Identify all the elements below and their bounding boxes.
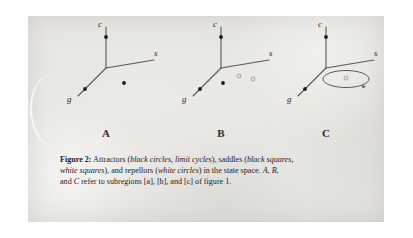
marker-black-circle-interior (221, 81, 225, 85)
axis-label-c: c (213, 19, 217, 29)
caption-l1-italic-a: black circles, limit cycles (130, 155, 212, 164)
caption-l1-plain-a: Attractors ( (92, 155, 131, 164)
marker-black-circle-g-axis (83, 87, 87, 91)
caption-l1-italic-b: black squares, (247, 155, 293, 164)
subfigure-labels: A B C (28, 127, 384, 143)
figure-caption: Figure 2: Attractors (black circles, lim… (60, 154, 308, 188)
caption-l2-plain-a: ), and repellors ( (104, 166, 158, 175)
caption-l2-plain-b: ) in the state space. (199, 166, 263, 175)
marker-white-circle-repellor (344, 76, 348, 80)
axis-label-s: s (154, 48, 158, 58)
sublabel-c: C (311, 127, 341, 139)
diagram-panel-b: c s g (173, 18, 283, 130)
marker-black-circle-c-axis (324, 35, 328, 39)
diagram-a-svg: c s g (58, 18, 168, 130)
axis-s (221, 60, 269, 68)
diagram-panel-a: c s g (58, 18, 168, 130)
axis-label-s: s (374, 48, 378, 58)
caption-l2-plain-d: , (277, 166, 279, 175)
marker-black-circle-g-axis (303, 87, 307, 91)
axis-g (193, 68, 221, 96)
marker-white-circle-repellor-2 (251, 77, 255, 81)
axis-label-s: s (269, 48, 273, 58)
diagram-c-svg: c s g (278, 18, 388, 130)
caption-l1-plain-b: ), saddles ( (212, 155, 247, 164)
axis-label-g: g (67, 94, 72, 104)
marker-black-circle-interior (122, 81, 126, 85)
axis-s (106, 60, 154, 68)
caption-l2-italic-b: white circles (158, 166, 199, 175)
caption-l2-italic-a: white squares (60, 166, 104, 175)
diagram-b-svg: c s g (173, 18, 283, 130)
axis-g (78, 68, 106, 96)
axis-g (298, 68, 326, 96)
caption-line-3: and C refer to subregions [a], [b], and … (60, 176, 308, 187)
marker-black-circle-g-axis (198, 87, 202, 91)
marker-black-circle-c-axis (219, 35, 223, 39)
axis-label-c: c (98, 19, 102, 29)
state-space-diagrams: c s g c s (28, 18, 384, 130)
page-background: c s g c s (0, 0, 413, 238)
marker-white-circle-repellor-1 (237, 74, 241, 78)
caption-l3-plain-b: refer to subregions [a], [b], and [c] of… (79, 177, 231, 186)
axis-label-c: c (318, 19, 322, 29)
caption-label: Figure 2: (60, 155, 92, 164)
axis-s (326, 60, 374, 68)
sublabel-b: B (206, 127, 236, 139)
marker-black-circle-c-axis (104, 35, 108, 39)
sublabel-a: A (91, 127, 121, 139)
caption-l3-plain-a: and (60, 177, 74, 186)
axis-label-g: g (182, 94, 187, 104)
axis-label-g: g (287, 94, 292, 104)
caption-line-2: white squares), and repellors (white cir… (60, 165, 308, 176)
diagram-panel-c: c s g (278, 18, 388, 130)
caption-line-1: Figure 2: Attractors (black circles, lim… (60, 154, 308, 165)
